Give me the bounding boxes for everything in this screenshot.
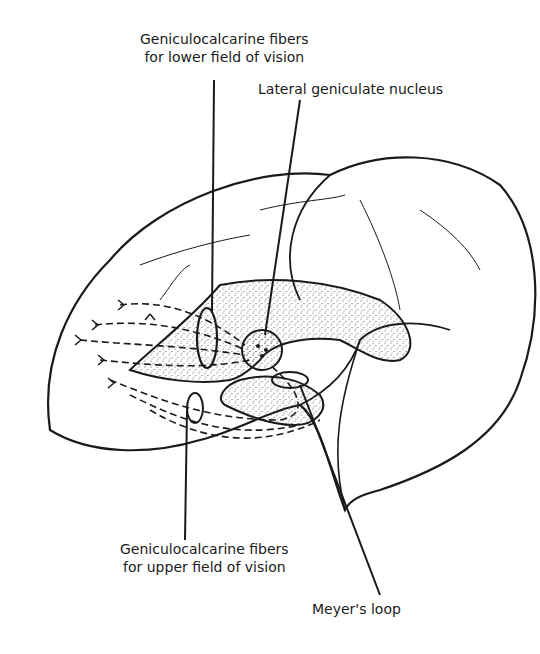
label-lower-fibers: Geniculocalcarine fibers for lower field… [140, 30, 309, 66]
label-line: for upper field of vision [120, 558, 289, 576]
label-line: Geniculocalcarine fibers [120, 540, 289, 558]
label-lgn: Lateral geniculate nucleus [258, 80, 443, 98]
lgn-structure [242, 330, 282, 370]
label-meyers-loop: Meyer's loop [312, 600, 401, 618]
label-line: for lower field of vision [140, 48, 309, 66]
label-upper-fibers: Geniculocalcarine fibers for upper field… [120, 540, 289, 576]
label-line: Geniculocalcarine fibers [140, 30, 309, 48]
